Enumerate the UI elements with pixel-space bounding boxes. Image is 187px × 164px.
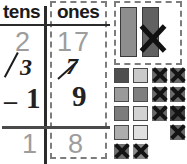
cross-out-icon-cube xyxy=(132,143,148,159)
cross-out-icon-cube xyxy=(169,124,185,140)
subtrahend-ones: 9 xyxy=(72,82,87,111)
place-value-chart: tens ones 2 17 3 7 – 1 9 1 8 xyxy=(0,0,110,164)
ones-cube xyxy=(133,87,148,102)
tens-rod-1 xyxy=(120,7,137,57)
ones-cube xyxy=(114,87,129,102)
cross-out-icon-cube xyxy=(151,105,167,121)
column-divider xyxy=(44,6,47,164)
ones-cube xyxy=(114,68,129,83)
regrouped-tens-strikethrough xyxy=(4,52,19,78)
regrouped-tens-handwritten: 3 xyxy=(20,55,32,79)
ones-column-header: ones xyxy=(57,2,99,21)
answer-rule xyxy=(2,126,110,129)
ones-cubes-group xyxy=(114,68,187,164)
cross-out-icon-cube xyxy=(169,67,185,83)
cross-out-icon-cube xyxy=(169,105,185,121)
cross-out-icon-cube xyxy=(151,86,167,102)
cross-out-icon-cube xyxy=(113,143,129,159)
tens-rod-2 xyxy=(142,7,159,57)
base-ten-blocks xyxy=(110,0,187,164)
cross-out-icon-cube xyxy=(169,86,185,102)
ones-cube xyxy=(133,125,148,140)
ones-cube xyxy=(114,125,129,140)
subtraction-worksheet: tens ones 2 17 3 7 – 1 9 1 8 xyxy=(0,0,187,164)
answer-ones: 8 xyxy=(68,131,83,158)
ones-cube xyxy=(133,68,148,83)
ones-cube xyxy=(114,106,129,121)
ones-cube xyxy=(133,106,148,121)
cross-out-icon-cube xyxy=(151,67,167,83)
answer-tens: 1 xyxy=(22,131,37,158)
minuend-ones-printed: 17 xyxy=(57,29,91,56)
tens-column-header: tens xyxy=(3,2,40,21)
header-rule xyxy=(0,24,110,26)
minus-sign: – xyxy=(4,86,17,115)
subtrahend-tens: 1 xyxy=(26,84,41,113)
